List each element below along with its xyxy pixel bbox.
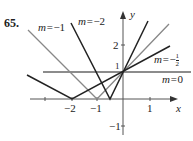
label-m-neg1: m=−1 [38, 22, 65, 33]
label-m-0: m=0 [162, 74, 183, 85]
x-tick-neg1: −1 [90, 103, 102, 114]
figure: 65. m=−1 m=−2 m=−12 m=0 y x −2 −1 1 2 1 … [0, 0, 193, 141]
label-m-neg-half: m=−12 [154, 53, 179, 68]
y-tick-neg1: −1 [109, 121, 121, 132]
x-tick-neg2: −2 [64, 103, 76, 114]
label-m-neg2: m=−2 [78, 16, 105, 27]
curve-m-neg1 [28, 24, 169, 99]
x-tick-1: 1 [147, 103, 153, 114]
y-tick-1: 1 [115, 62, 120, 71]
y-axis-arrow-icon [120, 11, 126, 19]
y-tick-2: 2 [113, 40, 119, 51]
x-axis-label: x [176, 103, 181, 114]
curve-m-neg2 [71, 21, 148, 99]
y-axis-label: y [130, 9, 135, 20]
problem-number: 65. [4, 17, 19, 29]
